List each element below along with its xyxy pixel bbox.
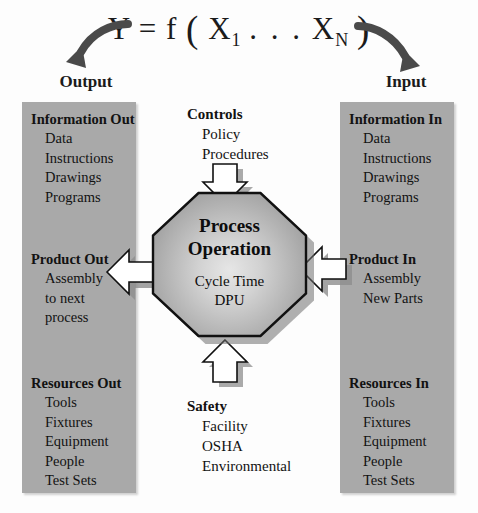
equation-open-paren: (	[186, 9, 199, 50]
equation-xn: X	[312, 11, 335, 46]
controls-heading: Controls	[187, 104, 269, 124]
resources-in-item: Tools	[349, 393, 463, 413]
product-in-item: Assembly	[349, 269, 463, 289]
product-in-block: Product In Assembly New Parts	[340, 250, 463, 308]
information-in-block: Information In Data Instructions Drawing…	[340, 110, 463, 207]
process-metric-dpu: DPU	[152, 291, 307, 310]
output-label: Output	[36, 72, 136, 92]
resources-in-item: Equipment	[349, 432, 463, 452]
process-operation-text: Process Operation Cycle Time DPU	[152, 214, 307, 310]
equation-f: f	[166, 11, 177, 46]
information-out-item: Instructions	[31, 149, 145, 169]
process-operation-node: Process Operation Cycle Time DPU	[152, 192, 314, 344]
product-in-heading: Product In	[349, 250, 463, 269]
resources-out-item: Equipment	[31, 432, 145, 452]
information-out-item: Programs	[31, 188, 145, 208]
resources-in-block: Resources In Tools Fixtures Equipment Pe…	[340, 374, 463, 491]
product-in-item: New Parts	[349, 289, 463, 309]
diagram-canvas: Y = f ( X1 . . . XN ) Output Input Infor…	[0, 0, 478, 513]
information-in-item: Programs	[349, 188, 463, 208]
input-label: Input	[356, 72, 456, 92]
resources-out-item: Tools	[31, 393, 145, 413]
equation-ellipsis: . . .	[249, 11, 303, 46]
input-column: Information In Data Instructions Drawing…	[340, 102, 454, 493]
process-title-line2: Operation	[152, 237, 307, 260]
resources-out-item: People	[31, 452, 145, 472]
process-metric-cycle-time: Cycle Time	[152, 272, 307, 291]
safety-block: Safety Facility OSHA Environmental	[187, 396, 291, 476]
resources-in-item: Test Sets	[349, 471, 463, 491]
resources-in-item: Fixtures	[349, 413, 463, 433]
information-in-item: Drawings	[349, 168, 463, 188]
process-title-line1: Process	[152, 214, 307, 237]
controls-item: Policy	[187, 124, 269, 144]
product-out-item: process	[31, 308, 145, 328]
information-out-item: Drawings	[31, 168, 145, 188]
information-in-heading: Information In	[349, 110, 463, 129]
information-out-block: Information Out Data Instructions Drawin…	[22, 110, 145, 207]
resources-in-heading: Resources In	[349, 374, 463, 393]
equation-x1-subscript: 1	[232, 30, 241, 50]
resources-in-item: People	[349, 452, 463, 472]
resources-out-item: Test Sets	[31, 471, 145, 491]
safety-heading: Safety	[187, 396, 291, 416]
information-in-item: Instructions	[349, 149, 463, 169]
information-out-heading: Information Out	[31, 110, 145, 129]
safety-item: OSHA	[187, 436, 291, 456]
controls-block: Controls Policy Procedures	[187, 104, 269, 164]
safety-item: Facility	[187, 416, 291, 436]
equation-x1: X	[208, 11, 231, 46]
safety-item: Environmental	[187, 456, 291, 476]
resources-out-heading: Resources Out	[31, 374, 145, 393]
resources-out-block: Resources Out Tools Fixtures Equipment P…	[22, 374, 145, 491]
equation-xn-subscript: N	[335, 30, 348, 50]
information-in-item: Data	[349, 129, 463, 149]
curved-arrow-to-output-icon	[62, 18, 132, 76]
equation-equals: =	[139, 11, 157, 46]
resources-out-item: Fixtures	[31, 413, 145, 433]
information-out-item: Data	[31, 129, 145, 149]
